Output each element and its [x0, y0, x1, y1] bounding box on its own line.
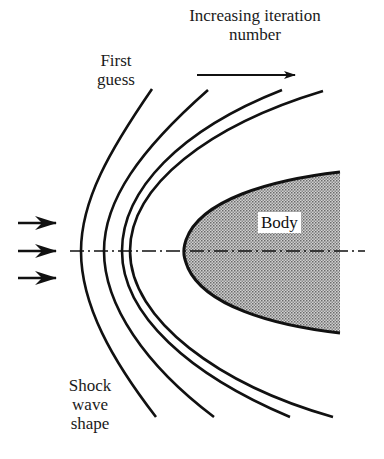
first-guess-label-line2: guess: [86, 70, 146, 89]
body-label: Body: [258, 212, 301, 233]
shock-wave-label-line1: Shock: [62, 376, 118, 395]
iteration-label: Increasing iteration number: [170, 6, 340, 44]
shock-wave-label-line3: shape: [62, 414, 118, 433]
first-guess-label: First guess: [86, 51, 146, 89]
shock-wave-label-line2: wave: [62, 395, 118, 414]
shock-wave-label: Shock wave shape: [62, 376, 118, 433]
iteration-label-line1: Increasing iteration: [170, 6, 340, 25]
shock-curve-first-guess: [81, 89, 156, 417]
iteration-label-line2: number: [170, 25, 340, 44]
body-shape: [184, 172, 340, 333]
shock-iteration-diagram: [0, 0, 384, 459]
first-guess-label-line1: First: [86, 51, 146, 70]
